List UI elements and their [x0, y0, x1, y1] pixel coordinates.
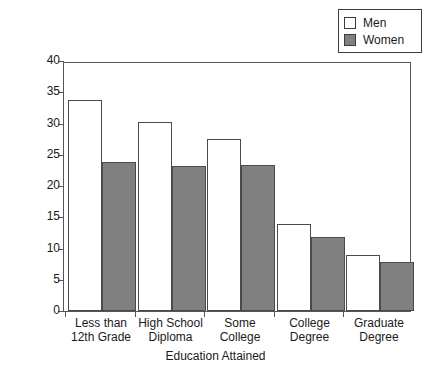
y-axis-tick-label: 25 [47, 147, 60, 161]
bar-men-4 [346, 255, 380, 311]
legend-label-men: Men [363, 17, 386, 29]
bar-women-1 [172, 166, 206, 311]
y-axis-tick-label: 15 [47, 209, 60, 223]
legend-swatch-women-icon [344, 34, 356, 46]
bar-women-3 [311, 237, 345, 311]
bar-women-4 [380, 262, 414, 311]
y-axis-tick-label: 20 [47, 178, 60, 192]
y-axis-tick-label: 30 [47, 116, 60, 130]
y-axis-tick-label: 35 [47, 84, 60, 98]
legend-swatch-men-icon [344, 17, 356, 29]
y-axis-tick-label: 40 [47, 53, 60, 67]
y-axis-tick-label: 10 [47, 241, 60, 255]
legend-label-women: Women [363, 34, 404, 46]
bar-women-2 [241, 165, 275, 311]
chart-legend: Men Women [338, 9, 422, 53]
x-axis-group-label-4: Graduate Degree [334, 316, 424, 344]
legend-entry-men: Men [344, 14, 415, 31]
bar-men-1 [138, 122, 172, 311]
x-axis-title: Education Attained [0, 349, 431, 363]
bar-men-2 [207, 139, 241, 312]
plot-frame: 0510152025303540 [63, 62, 411, 312]
plot-area: 0510152025303540 [64, 63, 410, 311]
bar-men-3 [277, 224, 311, 311]
bar-women-0 [102, 162, 136, 311]
y-axis-tick-label: 0 [53, 303, 60, 317]
y-axis-tick-label: 5 [53, 272, 60, 286]
bar-men-0 [68, 100, 102, 311]
legend-entry-women: Women [344, 31, 415, 48]
